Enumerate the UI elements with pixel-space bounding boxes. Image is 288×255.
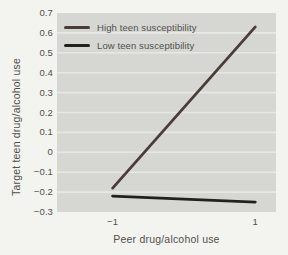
y-axis-title: Target teen drug/alcohol use [10,58,22,196]
high-susceptibility-line-swatch [64,26,90,29]
interaction-plot-figure: 0.70.60.50.40.30.20.10−0.1−0.2−0.3−11 Ta… [0,0,288,255]
legend-label-high: High teen susceptibility [97,22,197,33]
legend-item-low: Low teen susceptibility [64,39,197,52]
x-tick-label: −1 [107,216,118,228]
y-tick-label: 0.7 [0,7,53,19]
y-tick-label: 0.2 [0,107,53,119]
y-tick-label: 0.6 [0,27,53,39]
y-tick-label: 0.1 [0,126,53,138]
y-tick-label: −0.1 [0,166,53,178]
legend-item-high: High teen susceptibility [64,21,197,34]
low-susceptibility-line-swatch [64,44,90,47]
y-tick-label: −0.3 [0,206,53,218]
y-tick-label: 0.4 [0,67,53,79]
x-axis-title: Peer drug/alcohol use [57,233,276,245]
legend-label-low: Low teen susceptibility [97,40,194,51]
figure-area: 0.70.60.50.40.30.20.10−0.1−0.2−0.3−11 Ta… [0,0,288,255]
x-tick-label: 1 [253,216,258,228]
y-tick-label: 0.5 [0,47,53,59]
legend: High teen susceptibility Low teen suscep… [64,21,197,52]
y-tick-label: 0.3 [0,87,53,99]
y-tick-label: −0.2 [0,186,53,198]
y-tick-label: 0 [0,146,53,158]
